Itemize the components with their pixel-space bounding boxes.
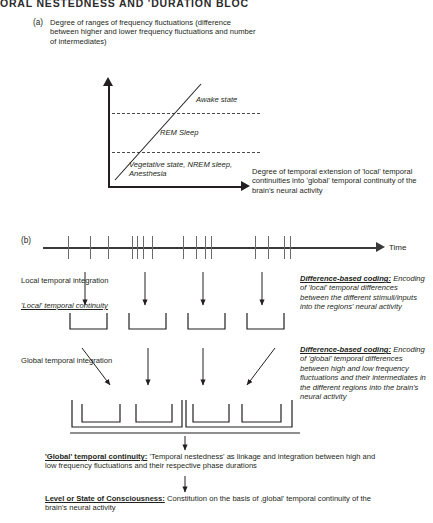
statement-level-of-consciousness: Level or State of Consciousness: Constit…: [45, 494, 385, 513]
global-integration-arrows: [82, 348, 275, 385]
statement-global-temporal-continuity: 'Global' temporal continuity: 'Temporal …: [45, 452, 385, 471]
figure-canvas: ORAL NESTEDNESS AND 'DURATION BLOC (a) D…: [0, 0, 433, 523]
local-continuity-brackets: [70, 313, 284, 329]
arrows-and-brackets-layer: [0, 0, 433, 523]
statement-level-heading: Level or State of Consciousness:: [45, 494, 165, 503]
global-continuity-brackets: [70, 400, 300, 433]
statement-global-heading: 'Global' temporal continuity:: [45, 452, 147, 461]
local-integration-arrows: [85, 272, 262, 305]
